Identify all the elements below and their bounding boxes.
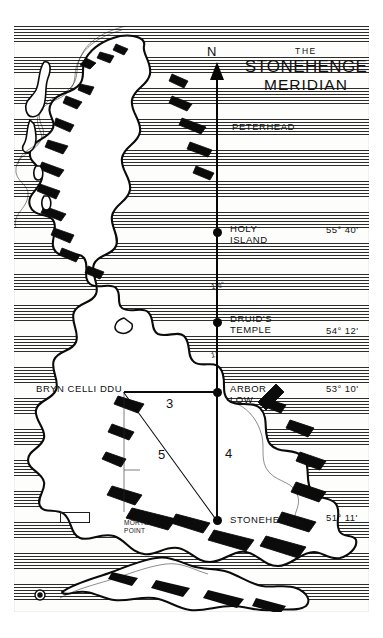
latitude-holy-island: 55° 40' xyxy=(326,224,359,235)
map-title-block: THE STONEHENGE MERIDIAN xyxy=(240,46,372,93)
latitude-arbor-low: 53° 10' xyxy=(326,383,359,394)
triangle-side-3 xyxy=(124,391,217,392)
label-arbor-low: ARBOR LOW xyxy=(230,384,267,405)
title-line-the: THE xyxy=(240,46,372,56)
degree-interval-lower: 1° xyxy=(210,349,219,359)
site-dot-holy-island xyxy=(213,228,222,237)
latitude-druids-temple: 54° 12' xyxy=(326,325,359,336)
latitude-stonehenge: 51° 11' xyxy=(326,512,358,523)
title-line-stonehenge: STONEHENGE xyxy=(240,57,372,76)
label-stonehenge: STONEHENGE xyxy=(230,515,302,526)
site-dot-druids-temple xyxy=(213,318,222,327)
label-druids-temple: DRUID'S TEMPLE xyxy=(230,314,272,335)
label-peterhead: PETERHEAD xyxy=(232,122,295,133)
triangle-side-4 xyxy=(216,392,218,520)
north-label: N xyxy=(207,44,217,59)
label-morte-point: MORTE POINT xyxy=(124,519,149,534)
label-bryn-celli-ddu: BRYN CELLI DDU xyxy=(36,384,122,395)
triangle-number-3: 3 xyxy=(166,396,174,411)
label-holy-island: HOLY ISLAND xyxy=(230,224,268,245)
triangle-number-5: 5 xyxy=(158,447,166,462)
triangle-number-4: 4 xyxy=(225,446,233,461)
map-figure: N PETERHEAD HOLY ISLAND DRUID'S TEMPLE A… xyxy=(0,0,383,638)
title-line-meridian: MERIDIAN xyxy=(240,76,372,93)
scale-inset-box xyxy=(60,512,90,523)
plate-border xyxy=(14,26,369,612)
